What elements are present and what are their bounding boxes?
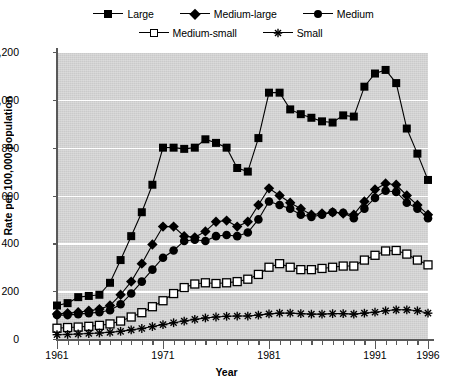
series-layer <box>57 52 428 339</box>
open-square-marker <box>360 256 368 264</box>
legend-swatch-medium-large <box>180 9 210 19</box>
x-tick-minor <box>110 340 111 345</box>
filled-circle-marker <box>63 311 72 320</box>
filled-square-marker <box>53 302 61 310</box>
filled-square-marker <box>127 232 135 240</box>
filled-circle-marker <box>159 253 168 262</box>
filled-diamond-marker <box>221 215 231 225</box>
asterisk-marker <box>307 310 316 319</box>
filled-square-marker <box>254 134 262 142</box>
open-square-marker <box>138 309 146 317</box>
chart-root: Large Medium-large Medium Medium <box>0 0 453 388</box>
open-square-marker <box>286 263 294 271</box>
filled-diamond-marker <box>264 183 274 193</box>
filled-circle-marker <box>381 186 390 195</box>
filled-circle-marker <box>53 311 62 320</box>
filled-square-marker <box>95 291 103 299</box>
filled-square-marker <box>265 89 273 97</box>
x-tick-minor <box>152 340 153 345</box>
x-tick-minor <box>227 340 228 345</box>
filled-square-marker <box>85 292 93 300</box>
x-tick-minor <box>386 340 387 345</box>
filled-square-marker <box>297 110 305 118</box>
open-square-marker <box>382 247 390 255</box>
filled-square-marker <box>170 144 178 152</box>
filled-square-marker <box>413 150 421 158</box>
y-tick-label: 0 <box>0 334 19 344</box>
y-tick-label: 600 <box>0 191 19 201</box>
open-square-marker <box>244 275 252 283</box>
y-tick-mark <box>53 196 57 197</box>
asterisk-marker <box>402 305 411 314</box>
legend-label-medium: Medium <box>337 8 374 20</box>
y-tick-mark <box>53 291 57 292</box>
open-square-marker <box>106 320 114 328</box>
asterisk-marker <box>212 313 221 322</box>
filled-diamond-marker <box>274 190 284 200</box>
x-tick-minor <box>258 340 259 345</box>
open-square-marker <box>127 313 135 321</box>
filled-square-marker <box>318 117 326 125</box>
filled-circle-marker <box>180 237 189 246</box>
filled-circle-marker <box>201 237 210 246</box>
asterisk-marker <box>116 327 125 336</box>
asterisk-marker <box>201 314 210 323</box>
asterisk-marker <box>148 322 157 331</box>
asterisk-marker <box>339 309 348 318</box>
open-square-marker <box>212 280 220 288</box>
x-tick-minor <box>333 340 334 345</box>
open-square-marker <box>95 321 103 329</box>
asterisk-marker <box>127 326 136 335</box>
x-tick-minor <box>354 340 355 345</box>
y-tick-label: 1,000 <box>0 95 19 105</box>
filled-circle-marker <box>138 277 147 286</box>
x-tick-major <box>57 340 58 349</box>
x-tick-minor <box>417 340 418 345</box>
filled-square-marker <box>148 181 156 189</box>
open-square-marker <box>329 263 337 271</box>
x-tick-minor <box>322 340 323 345</box>
filled-square-marker <box>360 83 368 91</box>
open-square-marker <box>424 261 432 269</box>
filled-square-marker <box>329 119 337 127</box>
open-square-marker <box>371 251 379 259</box>
filled-diamond-marker <box>232 221 242 231</box>
x-tick-minor <box>78 340 79 345</box>
legend-label-medium-large: Medium-large <box>214 8 277 20</box>
open-square-marker <box>403 250 411 258</box>
x-tick-minor <box>195 340 196 345</box>
plot-area <box>57 52 428 339</box>
asterisk-marker <box>159 320 168 329</box>
open-square-marker <box>339 262 347 270</box>
x-tick-label: 1996 <box>406 349 450 361</box>
filled-circle-marker <box>424 214 433 223</box>
asterisk-marker <box>95 329 104 338</box>
chart-legend: Large Medium-large Medium Medium <box>0 4 453 42</box>
y-tick-mark <box>53 100 57 101</box>
y-tick-mark <box>53 148 57 149</box>
y-tick-label: 200 <box>0 286 19 296</box>
asterisk-marker <box>381 306 390 315</box>
x-tick-major <box>375 340 376 349</box>
filled-square-marker <box>191 144 199 152</box>
x-tick-major <box>163 340 164 349</box>
legend-label-medium-small: Medium-small <box>173 27 237 39</box>
filled-square-marker <box>424 176 432 184</box>
asterisk-icon <box>272 27 283 38</box>
x-tick-minor <box>205 340 206 345</box>
filled-circle-marker <box>212 232 221 241</box>
asterisk-marker <box>84 329 93 338</box>
filled-square-marker <box>233 164 241 172</box>
open-square-marker <box>276 260 284 268</box>
filled-circle-marker <box>265 197 274 206</box>
filled-square-marker <box>350 113 358 121</box>
asterisk-marker <box>392 305 401 314</box>
legend-row-2: Medium-small <box>0 23 453 42</box>
filled-diamond-marker <box>147 239 157 249</box>
filled-square-marker <box>276 89 284 97</box>
filled-square-marker <box>223 144 231 152</box>
filled-square-marker <box>106 279 114 287</box>
legend-label-large: Large <box>127 8 153 20</box>
filled-circle-marker <box>297 210 306 219</box>
x-tick-major <box>428 340 429 349</box>
